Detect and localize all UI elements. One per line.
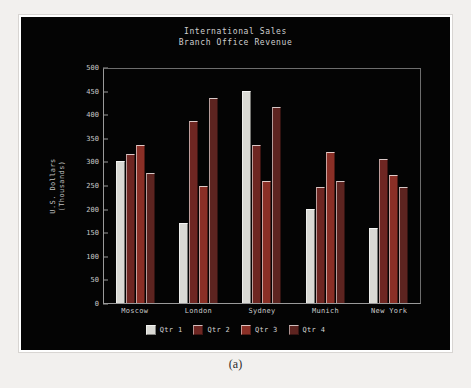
bar-qtr-1-new-york xyxy=(369,228,378,303)
x-axis-labels: MoscowLondonSydneyMunichNew York xyxy=(103,307,421,315)
legend-swatch-icon xyxy=(146,325,156,335)
bar-group xyxy=(116,69,155,303)
chart-title-block: International Sales Branch Office Revenu… xyxy=(21,26,450,48)
y-tick-label: 300 xyxy=(86,158,99,166)
chart-subtitle: Branch Office Revenue xyxy=(21,37,450,48)
y-tick-label: 200 xyxy=(86,206,99,214)
figure-caption: (a) xyxy=(0,357,471,372)
bar-qtr-3-new-york xyxy=(389,175,398,303)
bar-qtr-3-sydney xyxy=(262,181,271,303)
bar-qtr-3-london xyxy=(199,186,208,303)
bar-group xyxy=(179,69,218,303)
figure-container: International Sales Branch Office Revenu… xyxy=(0,0,471,388)
chart-canvas: International Sales Branch Office Revenu… xyxy=(21,17,450,350)
plot-area xyxy=(103,68,421,304)
legend-item-qtr-4[interactable]: Qtr 4 xyxy=(289,325,326,335)
bar-qtr-1-london xyxy=(179,223,188,303)
y-tick-label: 150 xyxy=(86,229,99,237)
bar-group xyxy=(306,69,345,303)
legend-swatch-icon xyxy=(193,325,203,335)
bar-qtr-4-moscow xyxy=(146,173,155,303)
x-axis-label: London xyxy=(170,307,226,315)
x-axis-label: New York xyxy=(361,307,417,315)
bar-qtr-4-munich xyxy=(336,181,345,303)
legend-label: Qtr 4 xyxy=(303,326,326,334)
bar-group xyxy=(242,69,281,303)
legend-item-qtr-2[interactable]: Qtr 2 xyxy=(193,325,230,335)
y-axis-title-line2: (Thousands) xyxy=(58,161,66,212)
y-tick-label: 100 xyxy=(86,253,99,261)
bar-qtr-4-sydney xyxy=(272,107,281,303)
x-axis-label: Sydney xyxy=(234,307,290,315)
bar-qtr-3-moscow xyxy=(136,145,145,303)
y-tick-label: 400 xyxy=(86,111,99,119)
bar-qtr-1-munich xyxy=(306,209,315,303)
y-axis-title-line1: U.S. Dollars xyxy=(49,158,57,213)
y-tick-label: 0 xyxy=(95,300,99,308)
bar-qtr-1-sydney xyxy=(242,91,251,303)
legend-swatch-icon xyxy=(241,325,251,335)
bar-qtr-1-moscow xyxy=(116,161,125,303)
legend-swatch-icon xyxy=(289,325,299,335)
bar-group xyxy=(369,69,408,303)
bar-qtr-2-munich xyxy=(316,187,325,303)
y-axis-title: U.S. Dollars (Thousands) xyxy=(47,68,69,304)
chart-image-frame: International Sales Branch Office Revenu… xyxy=(19,15,452,352)
bar-qtr-2-new-york xyxy=(379,159,388,303)
legend-item-qtr-1[interactable]: Qtr 1 xyxy=(146,325,183,335)
y-tick-label: 350 xyxy=(86,135,99,143)
bars-layer xyxy=(104,69,420,303)
bar-qtr-4-new-york xyxy=(399,187,408,303)
bar-qtr-4-london xyxy=(209,98,218,303)
legend-label: Qtr 2 xyxy=(207,326,230,334)
bar-qtr-3-munich xyxy=(326,152,335,303)
chart-title: International Sales xyxy=(21,26,450,37)
legend-label: Qtr 3 xyxy=(255,326,278,334)
bar-qtr-2-sydney xyxy=(252,145,261,303)
legend-label: Qtr 1 xyxy=(160,326,183,334)
chart-legend: Qtr 1Qtr 2Qtr 3Qtr 4 xyxy=(21,325,450,335)
y-tick-label: 500 xyxy=(86,64,99,72)
y-tick-label: 50 xyxy=(91,276,99,284)
bar-qtr-2-moscow xyxy=(126,154,135,303)
x-axis-label: Moscow xyxy=(107,307,163,315)
x-axis-label: Munich xyxy=(298,307,354,315)
bar-qtr-2-london xyxy=(189,121,198,303)
y-tick-label: 450 xyxy=(86,88,99,96)
legend-item-qtr-3[interactable]: Qtr 3 xyxy=(241,325,278,335)
y-tick-label: 250 xyxy=(86,182,99,190)
